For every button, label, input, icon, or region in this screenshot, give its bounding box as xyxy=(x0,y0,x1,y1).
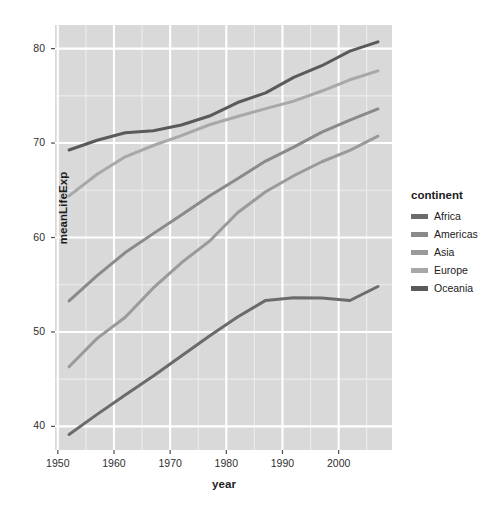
x-tick-label: 1950 xyxy=(38,457,78,469)
x-tick-label: 1970 xyxy=(150,457,190,469)
y-tick-label: 70 xyxy=(19,136,45,148)
y-tick-label: 40 xyxy=(19,419,45,431)
y-tick-label: 80 xyxy=(19,42,45,54)
legend-key-swatch-icon xyxy=(411,214,428,219)
legend: continent AfricaAmericasAsiaEuropeOceani… xyxy=(409,189,491,297)
legend-item-list: AfricaAmericasAsiaEuropeOceania xyxy=(409,207,491,297)
x-tick-label: 1960 xyxy=(94,457,134,469)
x-tick-label: 2000 xyxy=(319,457,359,469)
legend-key-swatch-icon xyxy=(411,232,428,237)
legend-item-label: Africa xyxy=(434,210,461,222)
legend-item-label: Asia xyxy=(434,246,454,258)
legend-item-africa[interactable]: Africa xyxy=(409,207,491,225)
legend-key-swatch-icon xyxy=(411,268,428,273)
legend-key-swatch-icon xyxy=(411,250,428,255)
legend-key-swatch-icon xyxy=(411,286,428,291)
legend-item-americas[interactable]: Americas xyxy=(409,225,491,243)
legend-item-oceania[interactable]: Oceania xyxy=(409,279,491,297)
chart-figure: meanLifeExp year 4050607080 195019601970… xyxy=(0,0,492,511)
legend-item-label: Europe xyxy=(434,264,468,276)
x-tick-label: 1990 xyxy=(262,457,302,469)
y-axis-title: meanLifeExp xyxy=(57,153,69,263)
x-tick-label: 1980 xyxy=(206,457,246,469)
legend-item-label: Americas xyxy=(434,228,478,240)
y-tick-label: 50 xyxy=(19,325,45,337)
legend-title: continent xyxy=(409,189,491,201)
legend-item-asia[interactable]: Asia xyxy=(409,243,491,261)
legend-item-europe[interactable]: Europe xyxy=(409,261,491,279)
x-axis-title: year xyxy=(55,478,393,490)
legend-item-label: Oceania xyxy=(434,282,473,294)
y-tick-label: 60 xyxy=(19,231,45,243)
